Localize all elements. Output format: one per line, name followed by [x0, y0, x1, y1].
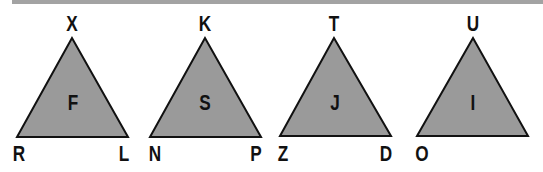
- triangle-3-bottom-left-label: Z: [275, 143, 291, 165]
- triangle-2-center-label: S: [197, 92, 213, 114]
- triangle-1: [17, 38, 128, 137]
- triangle-4-bottom-left-label: O: [414, 143, 430, 165]
- triangle-1-bottom-left-label: R: [11, 143, 27, 165]
- triangle-1-center-label: F: [65, 92, 81, 114]
- triangle-3: [280, 38, 391, 136]
- triangle-3-bottom-right-label: D: [378, 143, 394, 165]
- triangle-1-top-label: X: [64, 13, 80, 35]
- triangle-2-bottom-left-label: N: [147, 143, 163, 165]
- triangle-2-bottom-right-label: P: [248, 143, 264, 165]
- triangle-4: [417, 38, 528, 136]
- triangle-3-center-label: J: [327, 92, 343, 114]
- triangle-2-top-label: K: [197, 13, 213, 35]
- triangle-4-top-label: U: [465, 13, 481, 35]
- triangle-2: [150, 38, 261, 137]
- triangle-4-center-label: I: [465, 92, 481, 114]
- triangle-3-top-label: T: [326, 13, 342, 35]
- triangles-canvas: [0, 0, 543, 172]
- triangle-1-bottom-right-label: L: [116, 143, 132, 165]
